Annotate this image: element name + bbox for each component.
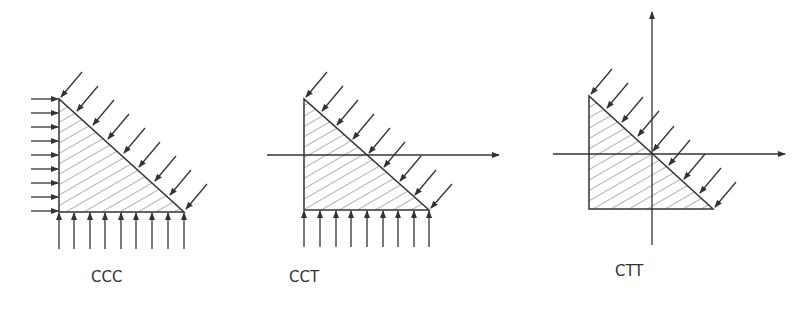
ctt-label: CTT (615, 262, 644, 280)
ccc-left-arrows (31, 99, 58, 211)
cct-label: CCT (289, 268, 319, 286)
ctt-triangle (589, 96, 713, 209)
ccc-triangle (59, 99, 184, 212)
stress-state-diagrams (0, 0, 811, 312)
cct-bottom-arrows (304, 211, 429, 247)
ccc-diagram (31, 72, 207, 249)
cct-diagram (267, 72, 499, 247)
ctt-diagram (553, 12, 785, 245)
ccc-bottom-arrows (59, 213, 184, 249)
ccc-label: CCC (91, 268, 122, 286)
